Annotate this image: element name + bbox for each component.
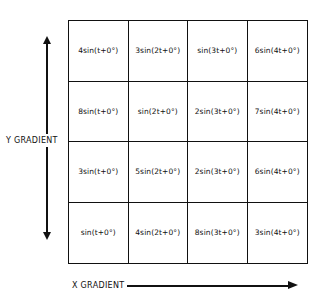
grid-cell: 3sin(4t+0°) <box>248 203 308 264</box>
grid-cell: 6sin(4t+0°) <box>248 142 308 203</box>
grid-cell: 8sin(t+0°) <box>69 82 129 143</box>
grid-cell: 4sin(2t+0°) <box>129 203 189 264</box>
grid-cell: 3sin(t+0°) <box>69 142 129 203</box>
x-gradient-label: X GRADIENT <box>72 281 124 290</box>
arrow-right-icon <box>288 281 298 289</box>
grid-cell: sin(2t+0°) <box>129 82 189 143</box>
grid-cell: 7sin(4t+0°) <box>248 82 308 143</box>
grid-cell: 8sin(3t+0°) <box>188 203 248 264</box>
grid-cell: 2sin(3t+0°) <box>188 142 248 203</box>
grid-cell: 2sin(3t+0°) <box>188 82 248 143</box>
y-gradient-label: Y GRADIENT <box>6 136 58 145</box>
grid-cell: 4sin(t+0°) <box>69 21 129 82</box>
x-gradient-arrow-shaft <box>127 285 290 287</box>
grid-cell: sin(3t+0°) <box>188 21 248 82</box>
arrow-up-icon <box>43 36 51 44</box>
grid-cell: 5sin(2t+0°) <box>129 142 189 203</box>
arrow-down-icon <box>43 232 51 240</box>
grid-cell: 3sin(2t+0°) <box>129 21 189 82</box>
function-grid: 4sin(t+0°) 3sin(2t+0°) sin(3t+0°) 6sin(4… <box>68 20 308 264</box>
grid-cell: 6sin(4t+0°) <box>248 21 308 82</box>
grid-cell: sin(t+0°) <box>69 203 129 264</box>
y-gradient-arrow-upper-shaft <box>46 42 48 134</box>
y-gradient-arrow-lower-shaft <box>46 147 48 235</box>
